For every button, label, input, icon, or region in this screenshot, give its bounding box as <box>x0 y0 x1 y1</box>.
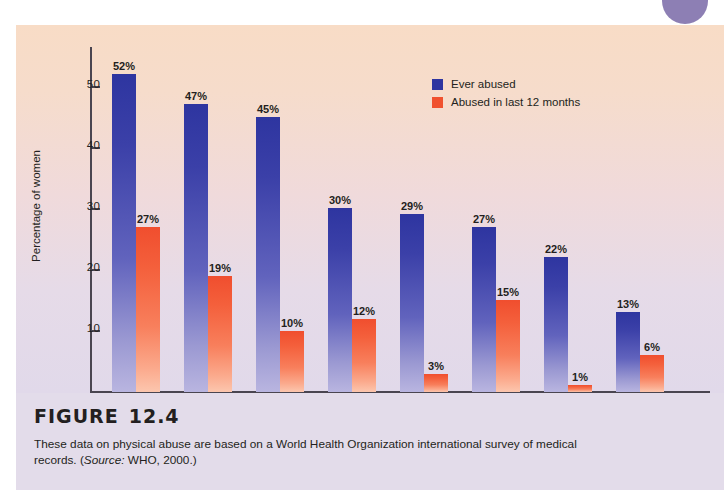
bar-nicaragua-recent[interactable]: 27% <box>136 227 160 392</box>
bar-label-switzerland-ever: 13% <box>617 298 639 310</box>
y-tick-label-10: 10 <box>72 322 100 334</box>
bar-label-mexico-ever: 27% <box>473 213 495 225</box>
bar-label-united-kingdom-ever: 30% <box>329 194 351 206</box>
bar-label-canada-ever: 29% <box>401 200 423 212</box>
caption-source-label: Source: <box>84 453 125 467</box>
bar-united-kingdom-recent[interactable]: 12% <box>352 319 376 392</box>
bar-ethiopia-ever[interactable]: 45% <box>256 117 280 392</box>
legend-swatch-icon-ever-abused <box>432 79 443 90</box>
legend-item-abused-last-12-months[interactable]: Abused in last 12 months <box>432 96 580 108</box>
bar-mexico-recent[interactable]: 15% <box>496 300 520 392</box>
page-decoration-dot <box>662 0 708 24</box>
bar-switzerland-ever[interactable]: 13% <box>616 312 640 392</box>
chart-legend: Ever abused Abused in last 12 months <box>432 78 580 114</box>
y-tick-label-20: 20 <box>72 261 100 273</box>
bar-label-mexico-recent: 15% <box>497 286 519 298</box>
bar-united-states-recent[interactable]: 1% <box>568 385 592 392</box>
bar-nicaragua-ever[interactable]: 52% <box>112 74 136 392</box>
figure-title: FIGURE12.4 <box>34 405 180 427</box>
bar-label-nicaragua-ever: 52% <box>113 60 135 72</box>
bar-mexico-ever[interactable]: 27% <box>472 227 496 392</box>
bar-bangladesh-recent[interactable]: 19% <box>208 276 232 392</box>
y-tick-label-40: 40 <box>72 139 100 151</box>
figure-caption-text: These data on physical abuse are based o… <box>34 437 594 468</box>
legend-label-ever-abused: Ever abused <box>451 78 516 90</box>
bar-label-canada-recent: 3% <box>428 360 444 372</box>
bar-label-united-kingdom-recent: 12% <box>353 305 375 317</box>
bar-united-states-ever[interactable]: 22% <box>544 257 568 392</box>
figure-12-4: 10 20 30 40 50 Percentage of women 52% 2… <box>16 25 724 490</box>
figure-title-label: FIGURE <box>34 405 119 427</box>
y-axis-title: Percentage of women <box>30 106 42 306</box>
bar-ethiopia-recent[interactable]: 10% <box>280 331 304 392</box>
legend-item-ever-abused[interactable]: Ever abused <box>432 78 580 90</box>
bar-label-bangladesh-recent: 19% <box>209 262 231 274</box>
legend-swatch-icon-abused-last-12-months <box>432 97 443 108</box>
bar-label-switzerland-recent: 6% <box>644 341 660 353</box>
bar-bangladesh-ever[interactable]: 47% <box>184 104 208 392</box>
y-tick-label-50: 50 <box>72 78 100 90</box>
bar-label-ethiopia-ever: 45% <box>257 103 279 115</box>
bar-canada-recent[interactable]: 3% <box>424 374 448 392</box>
bar-label-nicaragua-recent: 27% <box>137 213 159 225</box>
figure-title-number: 12.4 <box>129 405 180 427</box>
bar-switzerland-recent[interactable]: 6% <box>640 355 664 392</box>
bar-united-kingdom-ever[interactable]: 30% <box>328 208 352 392</box>
bar-label-united-states-ever: 22% <box>545 243 567 255</box>
legend-label-abused-last-12-months: Abused in last 12 months <box>451 96 580 108</box>
figure-caption-panel: FIGURE12.4 These data on physical abuse … <box>16 393 724 490</box>
bar-label-bangladesh-ever: 47% <box>185 90 207 102</box>
bar-canada-ever[interactable]: 29% <box>400 214 424 392</box>
y-axis-line <box>90 47 92 392</box>
caption-source-value: WHO, 2000.) <box>124 453 196 467</box>
y-tick-label-30: 30 <box>72 200 100 212</box>
plot-area: 10 20 30 40 50 Percentage of women 52% 2… <box>16 25 724 393</box>
bar-label-united-states-recent: 1% <box>572 371 588 383</box>
chart-panel: 10 20 30 40 50 Percentage of women 52% 2… <box>16 25 724 393</box>
bar-label-ethiopia-recent: 10% <box>281 317 303 329</box>
